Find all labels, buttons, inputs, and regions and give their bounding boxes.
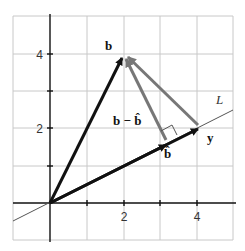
label-b: b (105, 38, 112, 53)
x-tick-4: 4 (194, 210, 201, 224)
vector-b-hat (50, 145, 166, 203)
x-tick-2: 2 (121, 210, 128, 224)
vector-b (50, 58, 122, 203)
label-L: L (215, 92, 223, 107)
label-b-minus-b-hat: b − b̂ (113, 113, 141, 128)
y-tick-2: 2 (36, 122, 43, 136)
grid (13, 16, 233, 240)
label-b-hat: b̂ (164, 146, 171, 161)
label-y: y (207, 130, 214, 145)
y-tick-4: 4 (36, 48, 43, 62)
projection-diagram: 2 4 2 4 b y b̂ b − b̂ L (0, 0, 245, 251)
